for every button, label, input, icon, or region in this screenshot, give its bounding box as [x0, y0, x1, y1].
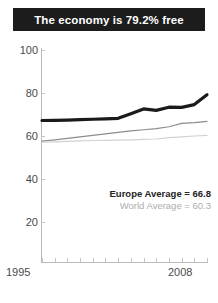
series-line — [42, 121, 207, 141]
y-tick-mark — [41, 179, 45, 180]
series-line — [42, 95, 207, 121]
chart-legend: Europe Average = 66.8 World Average = 60… — [103, 188, 211, 212]
series-plot — [0, 0, 218, 303]
legend-item-europe: Europe Average = 66.8 — [103, 188, 211, 200]
chart-card: The economy is 79.2% free 10080604020 19… — [0, 0, 218, 303]
y-tick-mark — [41, 93, 45, 94]
y-tick-mark — [41, 136, 45, 137]
y-tick-mark — [41, 222, 45, 223]
y-tick-mark — [41, 50, 45, 51]
legend-item-world: World Average = 60.3 — [103, 200, 211, 212]
